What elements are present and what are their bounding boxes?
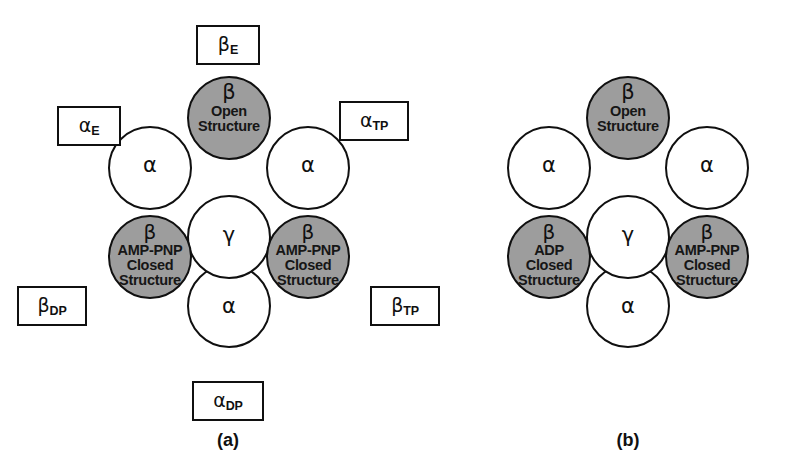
tag-alpha-TP-text: αTP (360, 111, 388, 130)
panel-b-circle-labels: β Open Structure α α γ β ADP Closed Stru… (430, 0, 796, 473)
label-beta-lower-right-line1: AMP-PNP (655, 243, 759, 258)
tag-alpha-E[interactable]: αE (57, 106, 121, 146)
label-beta-lower-left-line1: ADP (497, 243, 601, 258)
label-beta-lower-left: β ADP Closed Structure (497, 222, 601, 288)
label-alpha-left: α (110, 155, 190, 177)
label-beta-lower-right-line2: Closed (655, 258, 759, 273)
caption-panel-b: (b) (588, 430, 668, 451)
label-beta-lower-right: β AMP-PNP Closed Structure (655, 222, 759, 288)
label-alpha-right: α (667, 155, 747, 177)
label-beta-top-line2: Structure (179, 119, 279, 134)
caption-panel-a: (a) (188, 430, 268, 451)
tag-alpha-TP[interactable]: αTP (339, 101, 409, 141)
label-alpha-left-symbol: α (110, 155, 190, 177)
label-alpha-right-symbol: α (268, 155, 348, 177)
label-beta-lower-left-line2: Closed (98, 258, 202, 273)
label-beta-top-line1: Open (179, 104, 279, 119)
tag-beta-TP[interactable]: βTP (370, 286, 440, 326)
label-beta-top-symbol: β (578, 82, 678, 104)
label-beta-lower-right-symbol: β (655, 222, 759, 243)
label-beta-lower-right-line2: Closed (256, 258, 360, 273)
label-beta-lower-right-symbol: β (256, 222, 360, 243)
figure-root: β Open Structure α α γ β AMP-PNP Closed … (0, 0, 796, 473)
label-beta-lower-right-line3: Structure (256, 273, 360, 288)
tag-alpha-DP-text: αDP (213, 391, 243, 410)
label-beta-top-symbol: β (179, 82, 279, 104)
label-beta-lower-left-line3: Structure (98, 273, 202, 288)
label-alpha-right: α (268, 155, 348, 177)
label-beta-lower-left-line1: AMP-PNP (98, 243, 202, 258)
label-alpha-right-symbol: α (667, 155, 747, 177)
label-beta-top-line1: Open (578, 104, 678, 119)
panel-a: β Open Structure α α γ β AMP-PNP Closed … (0, 0, 430, 473)
tag-beta-TP-text: βTP (391, 296, 419, 315)
label-beta-lower-left-line3: Structure (497, 273, 601, 288)
label-beta-lower-left: β AMP-PNP Closed Structure (98, 222, 202, 288)
label-alpha-bottom-symbol: α (189, 296, 269, 318)
label-alpha-bottom: α (189, 296, 269, 318)
label-beta-lower-left-symbol: β (497, 222, 601, 243)
tag-alpha-DP[interactable]: αDP (192, 381, 264, 421)
label-beta-lower-right-line3: Structure (655, 273, 759, 288)
label-alpha-bottom-symbol: α (588, 296, 668, 318)
label-beta-top: β Open Structure (179, 82, 279, 134)
label-alpha-left: α (509, 155, 589, 177)
label-alpha-bottom: α (588, 296, 668, 318)
label-alpha-left-symbol: α (509, 155, 589, 177)
label-beta-lower-right: β AMP-PNP Closed Structure (256, 222, 360, 288)
label-beta-top-line2: Structure (578, 119, 678, 134)
tag-beta-DP-text: βDP (37, 296, 66, 315)
label-beta-top: β Open Structure (578, 82, 678, 134)
tag-beta-E-text: βE (218, 35, 238, 54)
label-beta-lower-right-line1: AMP-PNP (256, 243, 360, 258)
panel-b: β Open Structure α α γ β ADP Closed Stru… (430, 0, 796, 473)
tag-alpha-E-text: αE (79, 116, 100, 135)
tag-beta-DP[interactable]: βDP (17, 286, 87, 326)
tag-beta-E[interactable]: βE (196, 25, 260, 65)
label-beta-lower-left-line2: Closed (497, 258, 601, 273)
label-beta-lower-left-symbol: β (98, 222, 202, 243)
